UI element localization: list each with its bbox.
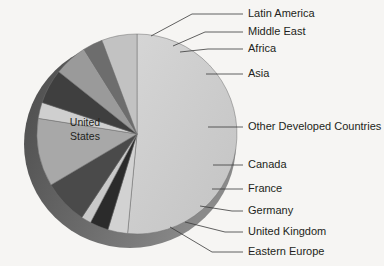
pie-label-asia: Asia <box>248 67 270 79</box>
pie-label-eastern-europe: Eastern Europe <box>248 245 324 257</box>
pie-label-canada: Canada <box>248 158 287 170</box>
pie-label-united-kingdom: United Kingdom <box>248 225 326 237</box>
pie-chart-svg: Latin America Middle East Africa Asia Ot… <box>0 0 384 266</box>
pie-label-latin-america: Latin America <box>248 7 316 19</box>
pie-label-other-developed-countries: Other Developed Countries <box>248 120 382 132</box>
leader-line-latin-america <box>151 14 243 36</box>
pie-label-germany: Germany <box>248 204 294 216</box>
pie-chart: Latin America Middle East Africa Asia Ot… <box>0 0 384 266</box>
pie-center-label-line2: States <box>70 130 100 142</box>
pie-center-label-line1: United <box>70 116 101 128</box>
pie-label-africa: Africa <box>248 42 277 54</box>
pie-label-france: France <box>248 182 282 194</box>
pie-slice-united-states <box>128 34 237 234</box>
pie-slices <box>37 34 237 234</box>
leader-line-middle-east <box>173 32 243 46</box>
pie-label-middle-east: Middle East <box>248 25 305 37</box>
